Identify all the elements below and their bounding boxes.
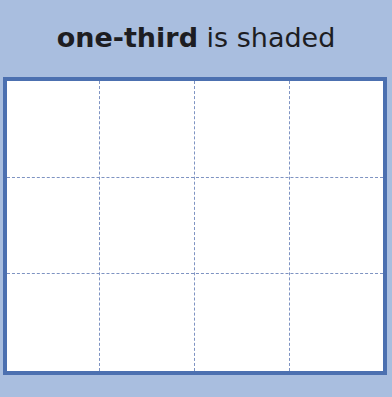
- grid-horizontal-line-1: [7, 177, 383, 178]
- title-fraction: one-third: [57, 22, 198, 53]
- page-title: one-third is shaded: [0, 22, 392, 53]
- grid-vertical-line-2: [194, 81, 195, 371]
- title-rest: is shaded: [198, 22, 335, 53]
- grid-vertical-line-1: [99, 81, 100, 371]
- grid-horizontal-line-2: [7, 273, 383, 274]
- fraction-grid: [3, 77, 387, 375]
- grid-vertical-line-3: [289, 81, 290, 371]
